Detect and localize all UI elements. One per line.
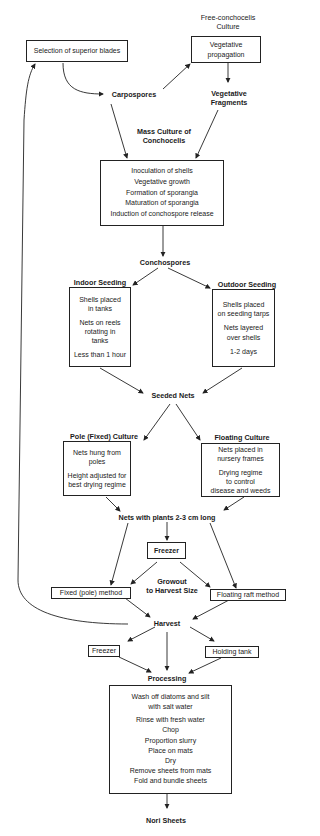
box-text: over shells xyxy=(227,333,260,342)
box-text: poles xyxy=(89,457,106,466)
freezer-box-1: Freezer xyxy=(147,542,186,559)
step-text: Maturation of sporangia xyxy=(125,198,199,209)
box-text: tanks xyxy=(92,336,109,345)
box-text: Nets hung from xyxy=(73,448,121,457)
nori-sheets-label: Nori Sheets xyxy=(140,816,192,825)
box-text: Height adjusted for xyxy=(68,471,127,480)
box-text: 1-2 days xyxy=(230,347,257,356)
box-text: Fixed (pole) method xyxy=(60,588,122,597)
nets-with-plants-label: Nets with plants 2-3 cm long xyxy=(115,513,219,522)
box-text: Floating raft method xyxy=(217,590,279,599)
indoor-seeding-box: Shells placed in tanks Nets on reels rot… xyxy=(69,287,131,367)
holding-tank-box: Holding tank xyxy=(205,646,259,658)
box-text: Less than 1 hour xyxy=(74,350,126,359)
box-text: Shells placed xyxy=(79,295,121,304)
label-line: Culture xyxy=(188,22,268,31)
step-text: Dry xyxy=(165,756,176,766)
step-text: Induction of conchospore release xyxy=(110,209,213,220)
box-text: Nets placed in xyxy=(218,445,262,454)
floating-raft-method-box: Floating raft method xyxy=(210,589,286,601)
selection-superior-blades-box: Selection of superior blades xyxy=(26,40,128,62)
step-text: Rinse with fresh water xyxy=(136,715,205,725)
growout-label: Growout to Harvest Size xyxy=(144,577,200,595)
box-text: Holding tank xyxy=(213,647,252,656)
conchospores-label: Conchospores xyxy=(135,258,195,267)
mass-culture-label: Mass Culture of Conchocelis xyxy=(124,127,204,145)
step-text: Wash off diatoms and silt xyxy=(132,692,210,702)
step-text: Proportion slurry xyxy=(145,736,196,746)
box-text: best drying regime xyxy=(68,480,126,489)
box-text: rotating in xyxy=(85,327,116,336)
outdoor-seeding-label: Outdoor Seeding xyxy=(214,280,280,289)
pole-culture-box: Nets hung from poles Height adjusted for… xyxy=(63,441,131,496)
label-line: Conchocelis xyxy=(124,136,204,145)
label-line: Vegetative xyxy=(205,89,253,98)
vegetative-propagation-box: Vegetative propagation xyxy=(191,36,261,63)
processing-steps-box: Wash off diatoms and silt with salt wate… xyxy=(109,685,232,794)
freezer-box-2: Freezer xyxy=(88,645,120,657)
seeded-nets-label: Seeded Nets xyxy=(145,391,201,400)
step-text: Chop xyxy=(162,725,179,735)
indoor-seeding-label: Indoor Seeding xyxy=(70,278,130,287)
box-text: propagation xyxy=(208,50,245,59)
outdoor-seeding-box: Shells placed on seeding tarps Nets laye… xyxy=(212,289,275,367)
mass-culture-steps-box: Inoculation of shells Vegetative growth … xyxy=(100,160,224,226)
step-text: Remove sheets from mats xyxy=(130,766,212,776)
harvest-label: Harvest xyxy=(150,619,184,628)
box-text: to control xyxy=(226,477,255,486)
pole-culture-label: Pole (Fixed) Culture xyxy=(64,432,144,441)
box-text: on seeding tarps xyxy=(218,309,270,318)
box-text: Drying regime xyxy=(219,468,263,477)
step-text: Place on mats xyxy=(148,746,192,756)
box-text: Nets layered xyxy=(224,323,263,332)
free-conchocelis-culture-label: Free-conchocelis Culture xyxy=(188,13,268,31)
box-text: Freezer xyxy=(154,546,179,555)
box-text: Shells placed xyxy=(223,300,265,309)
carpospores-label: Carpospores xyxy=(108,90,160,99)
step-text: with salt water xyxy=(148,702,192,712)
box-text: Nets on reels xyxy=(79,318,120,327)
floating-culture-box: Nets placed in nursery frames Drying reg… xyxy=(201,443,280,497)
box-text: nursery frames xyxy=(217,454,264,463)
label-line: to Harvest Size xyxy=(144,586,200,595)
step-text: Formation of sporangia xyxy=(126,188,198,199)
step-text: Vegetative growth xyxy=(134,177,190,188)
label-line: Fragments xyxy=(205,98,253,107)
floating-culture-label: Floating Culture xyxy=(210,433,274,442)
label-line: Mass Culture of xyxy=(124,127,204,136)
vegetative-fragments-label: Vegetative Fragments xyxy=(205,89,253,107)
box-text: Freezer xyxy=(92,646,116,655)
processing-label: Processing xyxy=(142,674,192,683)
label-line: Growout xyxy=(144,577,200,586)
box-text: disease and weeds xyxy=(211,486,271,495)
step-text: Fold and bundle sheets xyxy=(134,776,207,786)
fixed-pole-method-box: Fixed (pole) method xyxy=(51,587,131,599)
label-line: Free-conchocelis xyxy=(188,13,268,22)
box-text: Selection of superior blades xyxy=(34,46,120,55)
step-text: Inoculation of shells xyxy=(131,166,192,177)
box-text: Vegetative xyxy=(210,40,243,49)
box-text: in tanks xyxy=(88,304,112,313)
